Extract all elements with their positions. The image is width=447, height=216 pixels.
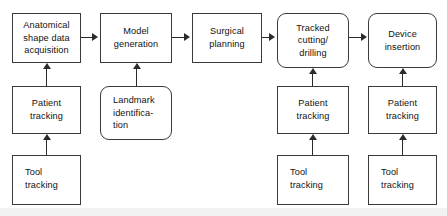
node-label: Patient tracking: [372, 97, 433, 122]
edge-anatomical-to-model-arrowhead: [92, 33, 98, 41]
edge-landmark-to-model-line: [136, 69, 137, 87]
node-label: Tool tracking: [281, 166, 345, 191]
edge-patient3-to-device-arrowhead: [399, 68, 407, 74]
edge-patient1-to-anatomical-line: [46, 69, 47, 87]
node-tool-tracking-3[interactable]: Tool tracking: [368, 155, 437, 205]
node-landmark-identification[interactable]: Landmark identifica- tion: [100, 86, 172, 140]
node-patient-tracking-1[interactable]: Patient tracking: [12, 86, 81, 134]
node-tracked-cutting-drilling[interactable]: Tracked cutting/ drilling: [277, 13, 349, 68]
edge-tracked-to-device-arrowhead: [361, 33, 367, 41]
edge-tool1-to-patient1-arrowhead: [43, 134, 51, 140]
edge-landmark-to-model-arrowhead: [133, 63, 141, 69]
node-tool-tracking-1[interactable]: Tool tracking: [12, 155, 81, 205]
diagram-canvas: Anatomical shape data acquisition Model …: [0, 0, 447, 216]
edge-model-to-surgical-arrowhead: [184, 33, 190, 41]
edge-tool3-to-patient3-arrowhead: [399, 134, 407, 140]
node-label: Tracked cutting/ drilling: [281, 22, 345, 60]
edge-tool2-to-patient2-line: [312, 140, 313, 156]
edge-tool3-to-patient3-line: [402, 140, 403, 156]
node-anatomical-shape-data-acquisition[interactable]: Anatomical shape data acquisition: [12, 13, 81, 63]
node-label: Landmark identifica- tion: [104, 94, 168, 132]
node-surgical-planning[interactable]: Surgical planning: [192, 13, 262, 63]
node-label: Surgical planning: [196, 25, 258, 50]
edge-surgical-to-tracked-arrowhead: [269, 33, 275, 41]
edge-tool2-to-patient2-arrowhead: [309, 134, 317, 140]
edge-patient1-to-anatomical-arrowhead: [43, 63, 51, 69]
node-label: Tool tracking: [372, 166, 433, 191]
edge-patient2-to-tracked-arrowhead: [309, 68, 317, 74]
node-device-insertion[interactable]: Device insertion: [368, 13, 437, 68]
node-label: Model generation: [104, 25, 168, 50]
bottom-edge-band: [0, 208, 447, 216]
node-label: Anatomical shape data acquisition: [16, 19, 77, 57]
node-patient-tracking-3[interactable]: Patient tracking: [368, 86, 437, 134]
node-label: Tool tracking: [16, 166, 77, 191]
edge-tool1-to-patient1-line: [46, 140, 47, 156]
node-label: Patient tracking: [281, 97, 345, 122]
node-label: Patient tracking: [16, 97, 77, 122]
node-model-generation[interactable]: Model generation: [100, 13, 172, 63]
node-tool-tracking-2[interactable]: Tool tracking: [277, 155, 349, 205]
node-label: Device insertion: [372, 28, 433, 53]
node-patient-tracking-2[interactable]: Patient tracking: [277, 86, 349, 134]
